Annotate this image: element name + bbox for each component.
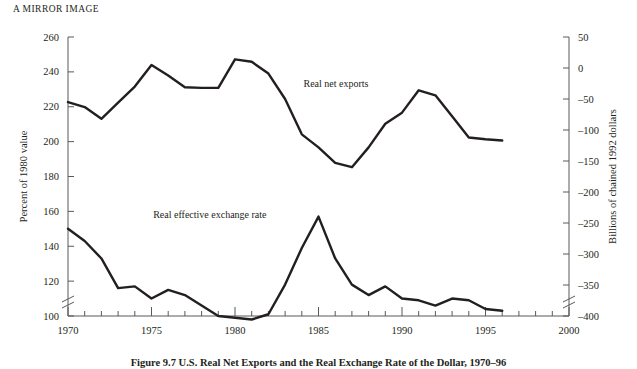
right-tick-label: –250 xyxy=(577,218,599,229)
x-tick-label: 1980 xyxy=(225,325,246,336)
series-label-2: Real effective exchange rate xyxy=(153,209,267,220)
right-tick-label: –150 xyxy=(577,156,599,167)
left-tick-label: 120 xyxy=(43,276,59,287)
left-tick-label: 140 xyxy=(43,241,59,252)
right-tick-label: –100 xyxy=(577,125,599,136)
left-tick-label: 220 xyxy=(43,101,59,112)
x-tick-label: 1995 xyxy=(475,325,496,336)
left-tick-label: 260 xyxy=(43,32,59,43)
series-group xyxy=(68,59,502,319)
x-tick-label: 2000 xyxy=(559,325,580,336)
x-tick-label: 1985 xyxy=(308,325,329,336)
left-axis-title: Percent of 1980 value xyxy=(18,130,29,222)
right-tick-label: 50 xyxy=(578,32,589,43)
figure-container: A MIRROR IMAGE 2602402202001801601401201… xyxy=(0,0,637,369)
x-tick-label: 1970 xyxy=(58,325,79,336)
right-tick-label: –200 xyxy=(577,187,599,198)
left-tick-label: 180 xyxy=(43,171,59,182)
x-tick-label: 1975 xyxy=(141,325,162,336)
right-tick-label: 0 xyxy=(578,63,583,74)
left-tick-label: 160 xyxy=(43,206,59,217)
right-tick-label: –50 xyxy=(577,94,594,105)
left-tick-label: 200 xyxy=(43,136,59,147)
series-line-1 xyxy=(68,59,502,167)
right-tick-label: –300 xyxy=(577,249,599,260)
series-label-1: Real net exports xyxy=(303,78,368,89)
right-tick-label: –350 xyxy=(577,280,599,291)
right-tick-label: –400 xyxy=(577,311,599,322)
figure-caption: Figure 9.7 U.S. Real Net Exports and the… xyxy=(0,357,637,368)
left-tick-label: 240 xyxy=(43,66,59,77)
series-labels-group: Real net exportsReal effective exchange … xyxy=(153,78,368,221)
chart-canvas: 260240220200180160140120100500–50–100–15… xyxy=(0,0,637,369)
left-tick-label: 100 xyxy=(43,311,59,322)
series-line-2 xyxy=(68,217,502,320)
right-axis-title: Billions of chained 1992 dollars xyxy=(607,109,618,244)
x-tick-label: 1990 xyxy=(392,325,413,336)
